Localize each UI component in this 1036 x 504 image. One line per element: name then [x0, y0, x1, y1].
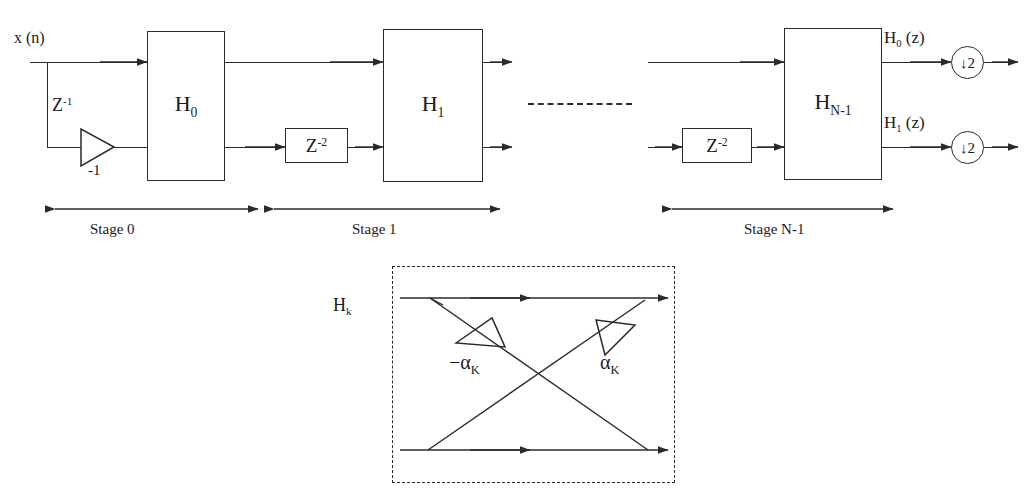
- delay-block-stageN[interactable]: Z-2: [682, 128, 752, 163]
- final-top-out-line: [984, 62, 1016, 63]
- downsampler-bottom[interactable]: ↓2: [951, 131, 984, 164]
- downsampler-top-label: ↓2: [952, 54, 983, 71]
- final-bottom-out-line: [984, 147, 1016, 148]
- detail-dashed-boundary: [392, 266, 675, 483]
- output-h0z-label: H0 (z): [884, 29, 925, 50]
- diagram-canvas: x (n) Z-1 -1 H0 Z-2 H1 Z-2 HN-1 H0 (z) H…: [0, 0, 1036, 504]
- stageN-bottom-in-line: [648, 147, 682, 148]
- block-h1[interactable]: H1: [383, 29, 483, 182]
- coefficient-negative-label: −αK: [449, 352, 480, 376]
- amp-to-h0-line: [113, 147, 147, 148]
- block-hn-1-label: HN-1: [785, 89, 881, 118]
- h0-top-out-line: [225, 62, 375, 63]
- coefficient-positive-label: αK: [600, 352, 619, 376]
- block-h0[interactable]: H0: [147, 31, 225, 181]
- block-hn-1[interactable]: HN-1: [784, 28, 882, 180]
- h0-bottom-out-line: [225, 147, 277, 148]
- branch-to-amp-line: [47, 147, 81, 148]
- block-h0-label: H0: [148, 91, 224, 120]
- delayN-to-hN-line: [752, 147, 784, 148]
- delay-block-stageN-label: Z-2: [683, 135, 751, 157]
- input-signal-label: x (n): [14, 30, 45, 46]
- stage-0-label: Stage 0: [90, 222, 135, 237]
- delay-z1-label: Z-1: [52, 96, 72, 114]
- delay1-to-h1-line: [348, 147, 375, 148]
- downsampler-top[interactable]: ↓2: [951, 46, 984, 79]
- hn-top-out-line: [882, 62, 948, 63]
- h1-bottom-out-line: [483, 147, 508, 148]
- block-h1-label: H1: [384, 91, 482, 120]
- h1-top-out-line: [483, 62, 508, 63]
- stage-1-label: Stage 1: [352, 222, 397, 237]
- delay-block-stage1-label: Z-2: [286, 135, 347, 157]
- input-branch-vline: [47, 62, 48, 147]
- gain-minus-one-label: -1: [88, 163, 101, 178]
- detail-block-label: Hk: [333, 296, 352, 317]
- stage-n-1-label: Stage N-1: [744, 222, 804, 237]
- downsampler-bottom-label: ↓2: [952, 139, 983, 156]
- output-h1z-label: H1 (z): [884, 114, 925, 135]
- delay-block-stage1[interactable]: Z-2: [285, 128, 348, 163]
- amplifier-triangle-inverter: [81, 129, 114, 166]
- stageN-top-in-line: [648, 62, 784, 63]
- hn-bottom-out-line: [882, 147, 948, 148]
- cascade-ellipsis: [528, 103, 632, 105]
